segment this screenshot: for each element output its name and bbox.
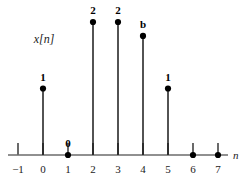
sample-dot [90, 19, 96, 25]
tick-label: 7 [215, 163, 221, 175]
sample-value-label: 2 [115, 4, 121, 16]
sample-value-labels: 1022b1 [40, 4, 171, 149]
sample-dot [40, 85, 46, 91]
tick-label: −1 [12, 163, 24, 175]
sample-dot [215, 152, 221, 158]
sample-dot [115, 19, 121, 25]
sample-value-label: b [140, 18, 146, 30]
signal-label: x[n] [33, 32, 55, 46]
tick-label: 4 [140, 163, 146, 175]
x-axis-tick-labels: −101234567 [12, 163, 221, 175]
stem-lines [43, 22, 168, 155]
sample-dot [165, 85, 171, 91]
stem-plot-figure: 1022b1 −101234567 x[n] n [0, 0, 250, 183]
x-axis-label: n [233, 149, 239, 161]
sample-value-label: 1 [165, 71, 171, 83]
tick-label: 3 [115, 163, 121, 175]
sample-dot [190, 152, 196, 158]
tick-label: 2 [90, 163, 96, 175]
sample-value-label: 1 [40, 71, 46, 83]
stem-plot-canvas: 1022b1 −101234567 x[n] n [0, 0, 250, 183]
sample-value-label: 0 [65, 137, 71, 149]
sample-dot [140, 33, 146, 39]
tick-label: 6 [190, 163, 196, 175]
tick-label: 0 [40, 163, 46, 175]
sample-dot [65, 152, 71, 158]
tick-label: 1 [65, 163, 71, 175]
sample-value-label: 2 [90, 4, 96, 16]
tick-label: 5 [165, 163, 171, 175]
